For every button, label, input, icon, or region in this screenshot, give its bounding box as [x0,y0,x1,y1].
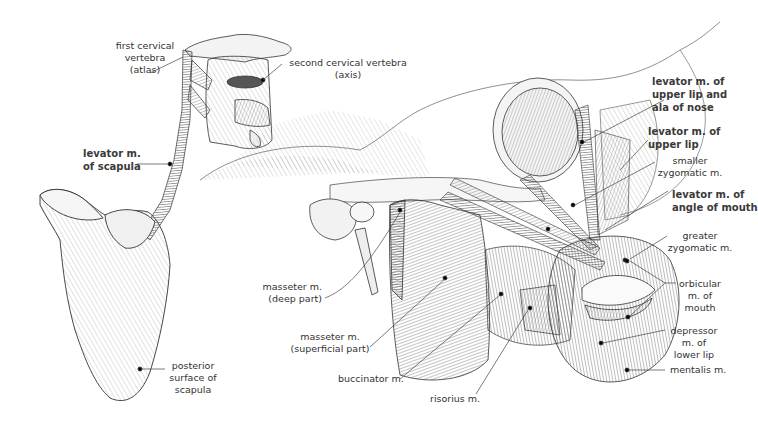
label-mentalis: mentalis m. [670,364,726,376]
label-smaller-zygomatic: smaller zygomatic m. [650,155,730,179]
label-posterior-surface-scapula: posterior surface of scapula [168,360,218,396]
label-greater-zygomatic: greater zygomatic m. [660,230,740,254]
label-second-cervical-vertebra: second cervical vertebra (axis) [288,57,408,81]
label-levator-scapula: levator m. of scapula [83,147,141,173]
zygomatic-arch [330,178,545,203]
orbicular-muscle-of-mouth [548,236,679,382]
orbit [493,78,583,182]
label-levator-upper-lip-ala-nose: levator m. of upper lip and ala of nose [652,75,727,114]
label-levator-angle-mouth: levator m. of angle of mouth [672,188,758,214]
label-levator-upper-lip: levator m. of upper lip [648,125,720,151]
label-depressor-lower-lip: depressor m. of lower lip [666,325,722,361]
levator-scapula-muscle [142,50,212,240]
label-risorius: risorius m. [430,393,480,405]
masseter-muscle [389,200,489,380]
label-masseter-superficial: masseter m. (superficial part) [290,331,370,355]
label-masseter-deep: masseter m. (deep part) [252,281,322,305]
label-orbicular-mouth: orbicular m. of mouth [672,278,728,314]
label-first-cervical-vertebra: first cervical vertebra (atlas) [100,40,190,76]
label-buccinator: buccinator m. [338,373,404,385]
